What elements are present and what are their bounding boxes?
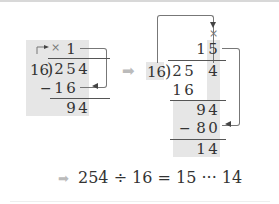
right-bracket: ) [165,62,171,81]
result-row: ➡ 254 ÷ 16 = 15 ··· 14 [58,168,242,187]
right-second-product-digit: 8 [196,121,206,136]
right-remainder-digit: 1 [196,142,206,157]
left-minus-sign: − [40,80,52,96]
left-bracket: ) [47,60,53,79]
left-product-arrow-icon [92,83,100,89]
right-minus-sign: − [179,120,191,136]
left-dividend-digit: 4 [78,62,88,77]
result-equation: 254 ÷ 16 = 15 ··· 14 [78,168,242,187]
right-partial-digit: 9 [196,103,206,118]
right-second-product-digit: 0 [208,121,218,136]
right-first-product-digit: 6 [184,83,194,98]
left-remainder-digit: 4 [78,101,88,116]
left-product-digit: 6 [66,81,76,96]
right-first-product-digit: 1 [172,83,182,98]
left-multiply-mark: × [51,41,60,54]
left-dividend-digit: 5 [66,62,76,77]
left-quotient-digit: 1 [66,42,76,57]
right-dividend-digit: 2 [172,64,182,79]
right-division-bar [168,60,226,61]
left-product-digit: 1 [54,81,64,96]
left-multiply-arrow-icon [36,45,46,55]
step-arrow-icon: ➡ [122,62,135,80]
right-dividend-digit: 4 [208,64,218,79]
right-quotient-digit: 1 [196,42,206,57]
bottom-border [10,201,270,202]
result-arrow-icon: ➡ [58,171,69,186]
right-dividend-digit: 5 [184,64,194,79]
right-remainder-digit: 4 [208,142,218,157]
top-border [0,0,279,2]
right-quotient-digit: 5 [208,42,218,57]
right-divisor: 16 [147,63,166,81]
right-product-arrow-icon [225,121,233,127]
left-dividend-digit: 2 [54,62,64,77]
right-partial-digit: 4 [208,103,218,118]
right-multiply-mark: × [209,27,218,40]
left-remainder-digit: 9 [66,101,76,116]
left-division-bar [48,58,110,59]
